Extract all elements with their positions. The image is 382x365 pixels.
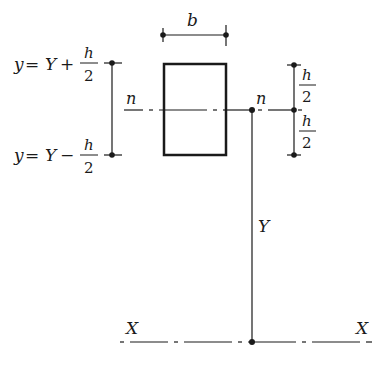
- svg-text:+: +: [60, 54, 74, 74]
- reference-axis-label-right: X: [354, 318, 369, 338]
- svg-text:2: 2: [302, 134, 312, 152]
- bottom-edge-formula: y = Y − h 2: [13, 136, 98, 177]
- reference-axis-label-left: X: [124, 318, 139, 338]
- left-height-dimension: [104, 63, 122, 155]
- svg-text:2: 2: [84, 159, 94, 177]
- cross-section-diagram: b n n Y X X y = Y + h 2 y = Y − h 2 h 2 …: [0, 0, 382, 365]
- svg-text:h: h: [302, 66, 312, 84]
- svg-text:h: h: [302, 112, 312, 130]
- svg-text:Y: Y: [45, 145, 58, 165]
- svg-text:2: 2: [84, 67, 94, 85]
- neutral-axis-label-left: n: [126, 89, 136, 108]
- svg-text:h: h: [84, 136, 94, 154]
- top-edge-formula: y = Y + h 2: [13, 44, 98, 85]
- width-label: b: [187, 10, 198, 30]
- neutral-axis-label-right: n: [256, 89, 266, 108]
- upper-half-height-label: h 2: [299, 66, 316, 106]
- svg-text:y: y: [13, 145, 24, 165]
- svg-text:y: y: [13, 54, 24, 74]
- svg-text:=: =: [25, 145, 39, 165]
- svg-text:−: −: [60, 145, 74, 165]
- lower-half-height-label: h 2: [299, 112, 316, 152]
- distance-label: Y: [258, 216, 271, 236]
- svg-text:h: h: [84, 44, 94, 62]
- svg-text:=: =: [25, 54, 39, 74]
- svg-text:Y: Y: [45, 54, 58, 74]
- svg-text:2: 2: [302, 88, 312, 106]
